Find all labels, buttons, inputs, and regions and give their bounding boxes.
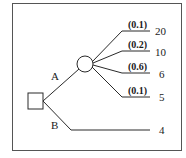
- decision-node-square: [28, 93, 43, 109]
- outcome-2-probability: (0.2): [128, 39, 147, 51]
- branch-a-line: [43, 69, 79, 101]
- outcome-1-payoff: 20: [155, 25, 167, 37]
- branch-b-label: B: [51, 119, 58, 131]
- outcome-1-probability: (0.1): [128, 19, 147, 31]
- decision-tree-diagram: A (0.1) 20 (0.2) 10 (0.6) 6 (0.1) 5 B 4: [0, 0, 186, 158]
- outcome-3-payoff: 6: [159, 68, 165, 80]
- branch-b-payoff: 4: [159, 124, 165, 136]
- outcome-2-payoff: 10: [155, 46, 167, 58]
- outcome-4-probability: (0.1): [128, 85, 147, 97]
- branch-a-label: A: [51, 70, 59, 82]
- branch-b-line: [43, 101, 150, 130]
- outcome-4-payoff: 5: [159, 91, 165, 103]
- outcome-3-probability: (0.6): [128, 61, 147, 73]
- chance-node-circle: [77, 56, 93, 72]
